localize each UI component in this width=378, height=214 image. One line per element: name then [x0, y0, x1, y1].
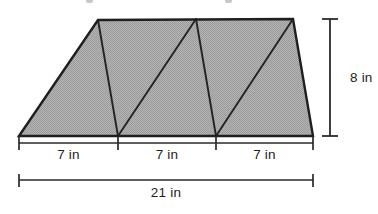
segment-label-2: 7 in: [156, 148, 179, 162]
height-dimension-line: [322, 19, 338, 136]
total-base-dimension-label: 21 in: [151, 186, 181, 200]
geometry-figure: 8 in 7 in 7 in 7 in 21 in: [0, 0, 378, 214]
height-dimension-label: 8 in: [350, 71, 373, 85]
segment-label-1: 7 in: [57, 148, 80, 162]
trapezoid-diagram-canvas: [0, 0, 378, 214]
segment-label-3: 7 in: [253, 148, 276, 162]
trapezoid-fill: [19, 19, 313, 136]
